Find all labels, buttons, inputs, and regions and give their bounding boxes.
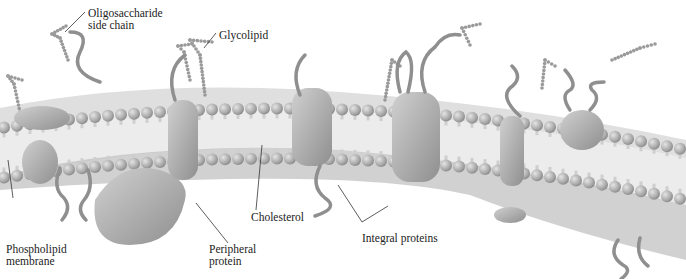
sugar-bead [638,46,642,50]
sugar-bead [462,30,466,34]
sugar-bead [383,98,387,102]
phospholipid-head [440,109,452,121]
sugar-bead [192,44,196,48]
sugar-bead [632,49,636,53]
phospholipid-head [154,106,166,118]
phospholipid-head [115,159,127,171]
sugar-bead [66,58,70,62]
sugar-bead [62,46,66,50]
integral-protein [292,88,332,166]
phospholipid-head [544,121,556,133]
sugar-bead [635,48,639,52]
phospholipid-head [635,135,647,147]
phospholipid-head [232,103,244,115]
sugar-bead [202,87,206,91]
phospholipid-head [336,153,348,165]
phospholipid-head [622,183,634,195]
sugar-bead [200,67,204,71]
sugar-bead [649,43,653,47]
phospholipid-head [89,161,101,173]
sugar-bead [182,50,186,54]
label-oligosaccharide-side-chain: Oligosaccharide side chain [88,7,163,31]
phospholipid-head [11,170,23,182]
phospholipid-head [362,154,374,166]
sugar-bead [385,88,389,92]
phospholipid-head [349,154,361,166]
sugar-bead [467,40,471,44]
phospholipid-head [466,112,478,124]
phospholipid-head [206,154,218,166]
membrane-diagram [0,0,686,279]
sugar-bead [467,25,471,29]
sugar-bead [6,74,10,78]
sugar-bead [542,72,546,76]
sugar-bead [196,50,200,54]
sugar-bead [616,56,620,60]
sugar-bead [542,69,546,73]
phospholipid-head [245,153,257,165]
sugar-bead [543,62,547,66]
sugar-bead [202,80,206,84]
sugar-bead [185,64,189,68]
phospholipid-head [349,104,361,116]
phospholipid-head [661,140,673,152]
phospholipid-head [531,119,543,131]
sugar-bead [201,77,205,81]
sugar-bead [176,44,180,48]
phospholipid-head [622,133,634,145]
phospholipid-head [89,111,101,123]
phospholipid-head [440,159,452,171]
phospholipid-head [674,193,686,205]
sugar-bead [194,47,198,51]
sugar-bead [547,60,551,64]
phospholipid-head [128,108,140,120]
integral-protein [560,110,604,150]
integral-protein [22,140,58,184]
phospholipid-head [141,157,153,169]
sugar-bead [203,93,207,97]
label-glycolipid: Glycolipid [219,29,268,41]
phospholipid-head [232,153,244,165]
sugar-bead [478,22,482,26]
sugar-bead [626,52,630,56]
sugar-bead [465,36,469,40]
sugar-bead [390,62,394,66]
sugar-bead [384,95,388,99]
phospholipid-head [479,163,491,175]
phospholipid-head [271,102,283,114]
sugar-bead [610,58,614,62]
phospholipid-head [544,171,556,183]
phospholipid-head [674,143,686,155]
sugar-bead [553,64,557,68]
sugar-bead [65,55,69,59]
phospholipid-head [362,104,374,116]
phospholipid-head [570,175,582,187]
sugar-bead [642,45,646,49]
sugar-bead [543,58,547,62]
sugar-bead [387,78,391,82]
phospholipid-head [648,138,660,150]
sugar-bead [200,70,204,74]
phospholipid-head [336,103,348,115]
sugar-bead [210,40,214,44]
sugar-bead [179,47,183,51]
sugar-bead [13,86,17,90]
sugar-bead [63,49,67,53]
phospholipid-head [219,103,231,115]
sugar-bead [386,82,390,86]
phospholipid-head [63,164,75,176]
sugar-bead [15,96,19,100]
phospholipid-head [635,185,647,197]
peripheral-protein-small [494,207,526,223]
phospholipid-head [609,181,621,193]
integral-protein [500,116,524,186]
phospholipid-head [557,173,569,185]
phospholipid-head [661,190,673,202]
sugar-bead [64,52,68,56]
phospholipid-head [466,162,478,174]
phospholipid-head [479,113,491,125]
sugar-bead [183,43,187,47]
sugar-bead [471,24,475,28]
sugar-bead [623,53,627,57]
sugar-bead [198,53,202,57]
